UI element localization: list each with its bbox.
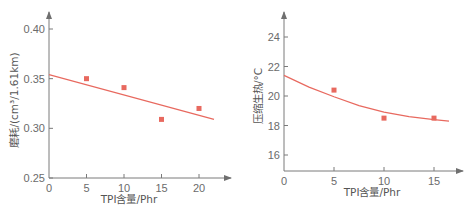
- x-tick-label: 20: [193, 182, 205, 194]
- data-point: [197, 106, 202, 111]
- y-tick-label: 16: [268, 149, 280, 161]
- x-axis-label: TPI含量/Phr: [100, 193, 158, 205]
- y-tick-label: 0.40: [24, 23, 45, 35]
- x-tick-label: 15: [428, 175, 440, 187]
- y-tick-label: 0.35: [24, 73, 45, 85]
- chart-compression-heat: 1618202224 051015 TPI含量/Phr 压缩生热/°C: [252, 12, 463, 198]
- x-ticks: 051015: [281, 167, 440, 187]
- data-point: [84, 76, 89, 81]
- y-tick-label: 24: [268, 31, 280, 43]
- y-axis-label: 压缩生热/°C: [252, 68, 264, 124]
- x-axis-label: TPI含量/Phr: [343, 186, 401, 198]
- fit-curve: [284, 75, 449, 121]
- y-ticks: 1618202224: [268, 31, 288, 161]
- chart-wear: 0.250.300.350.40 05101520 TPI含量/Phr 磨耗/(…: [8, 12, 231, 205]
- x-tick-label: 0: [46, 182, 52, 194]
- data-point: [122, 85, 127, 90]
- y-axis-label: 磨耗/(cm³/1.61km): [8, 52, 20, 147]
- x-tick-label: 0: [281, 175, 287, 187]
- figure: 0.250.300.350.40 05101520 TPI含量/Phr 磨耗/(…: [0, 0, 474, 219]
- data-point: [332, 88, 337, 93]
- data-markers: [84, 76, 202, 122]
- data-point: [382, 116, 387, 121]
- y-tick-label: 20: [268, 90, 280, 102]
- x-tick-label: 5: [83, 182, 89, 194]
- y-tick-label: 22: [268, 61, 280, 73]
- fit-line: [49, 75, 214, 120]
- data-point: [432, 116, 437, 121]
- y-tick-label: 0.30: [24, 122, 45, 134]
- data-point: [159, 117, 164, 122]
- x-ticks: 05101520: [46, 174, 205, 194]
- data-markers: [332, 88, 437, 121]
- x-tick-label: 5: [331, 175, 337, 187]
- y-tick-label: 0.25: [24, 172, 45, 184]
- y-tick-label: 18: [268, 120, 280, 132]
